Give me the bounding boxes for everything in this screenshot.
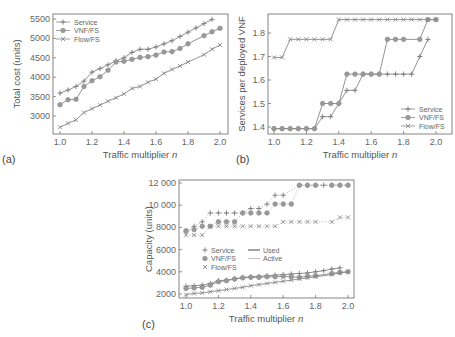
data-point-plus-marker	[256, 206, 261, 211]
data-point-circle-marker	[240, 276, 245, 281]
data-point-circle-marker	[280, 126, 285, 131]
data-point-plus-marker	[177, 34, 182, 39]
data-point-circle-marker	[192, 227, 197, 232]
legend-label: Flow/FS	[419, 123, 445, 130]
panel-label-a: (a)	[2, 153, 15, 165]
data-point-circle-marker	[265, 211, 270, 216]
data-point-circle-marker	[232, 220, 237, 225]
x-tick-label: 2.0	[214, 137, 227, 147]
data-point-plus-marker	[393, 72, 398, 77]
legend-plus-marker	[405, 106, 410, 111]
data-point-circle-marker	[138, 55, 143, 60]
legend-label: Service	[211, 247, 234, 254]
data-point-x-marker	[330, 220, 334, 224]
x-tick-label: 2.0	[342, 301, 355, 311]
y-tick-label: 5000	[30, 33, 50, 43]
data-point-x-marker	[106, 99, 110, 103]
x-tick-label: 1.6	[365, 137, 378, 147]
data-point-circle-marker	[281, 274, 286, 279]
data-point-circle-marker	[304, 126, 309, 131]
x-tick-label: 1.4	[118, 137, 131, 147]
data-point-circle-marker	[232, 277, 237, 282]
data-point-circle-marker	[296, 126, 301, 131]
data-point-circle-marker	[313, 183, 318, 188]
data-point-plus-marker	[248, 206, 253, 211]
data-point-circle-marker	[66, 97, 71, 102]
y-axis-label: Total cost (units)	[11, 39, 22, 108]
data-point-circle-marker	[385, 37, 390, 42]
x-axis-label: Traffic multiplier n	[323, 149, 397, 160]
data-point-circle-marker	[249, 211, 254, 216]
data-point-circle-marker	[184, 228, 189, 233]
data-point-circle-marker	[330, 183, 335, 188]
data-point-circle-marker	[272, 126, 277, 131]
legend-label: Flow/FS	[211, 264, 237, 271]
data-point-circle-marker	[200, 285, 205, 290]
plot-area-c	[179, 180, 354, 298]
data-point-x-marker	[82, 111, 86, 115]
data-point-plus-marker	[57, 91, 62, 96]
data-point-plus-marker	[129, 50, 134, 55]
panel-label-b: (b)	[236, 153, 249, 165]
data-point-plus-marker	[169, 38, 174, 43]
data-point-circle-marker	[328, 101, 333, 106]
legend-plus-marker	[60, 19, 65, 24]
y-tick-label: 8000	[156, 222, 176, 232]
data-point-x-marker	[122, 92, 126, 96]
data-point-x-marker	[74, 118, 78, 122]
data-point-plus-marker	[224, 210, 229, 215]
x-tick-label: 1.0	[180, 301, 193, 311]
x-tick-label: 1.2	[300, 137, 313, 147]
x-tick-label: 1.8	[309, 301, 322, 311]
data-point-plus-marker	[264, 201, 269, 206]
x-tick-label: 2.0	[430, 137, 443, 147]
data-point-plus-marker	[145, 47, 150, 52]
data-point-plus-marker	[201, 21, 206, 26]
chart-panel-c: 1.01.21.41.61.82.0200040006000800010 000…	[142, 178, 354, 330]
y-tick-label: 3500	[30, 92, 50, 102]
data-point-circle-marker	[281, 202, 286, 207]
data-point-circle-marker	[289, 202, 294, 207]
data-point-circle-marker	[224, 220, 229, 225]
y-axis-label: Capacity (units)	[143, 206, 154, 272]
data-point-circle-marker	[273, 202, 278, 207]
data-point-x-marker	[218, 43, 222, 47]
legend-label: Used	[263, 247, 279, 254]
data-point-plus-marker	[137, 47, 142, 52]
data-point-x-marker	[200, 233, 204, 237]
data-point-x-marker	[170, 67, 174, 71]
y-tick-label: 12 000	[148, 178, 176, 188]
data-point-circle-marker	[154, 53, 159, 58]
y-tick-label: 4000	[156, 267, 176, 277]
data-point-x-marker	[241, 224, 245, 228]
data-point-circle-marker	[162, 50, 167, 55]
legend-circle-marker	[406, 115, 411, 120]
x-tick-label: 1.4	[333, 137, 346, 147]
data-point-x-marker	[210, 47, 214, 51]
data-point-circle-marker	[224, 278, 229, 283]
series-flow-fs	[272, 18, 438, 60]
data-point-plus-marker	[193, 25, 198, 30]
data-point-circle-marker	[345, 72, 350, 77]
data-point-x-marker	[66, 121, 70, 125]
data-point-x-marker	[186, 60, 190, 64]
data-point-circle-marker	[210, 30, 215, 35]
data-point-circle-marker	[146, 54, 151, 59]
data-point-circle-marker	[297, 183, 302, 188]
data-point-circle-marker	[218, 26, 223, 31]
y-tick-label: 4500	[30, 53, 50, 63]
legend-label: VNF/FS	[74, 27, 99, 34]
y-axis-label: Services per deployed VNF	[236, 16, 247, 132]
data-point-plus-marker	[321, 268, 326, 273]
data-point-circle-marker	[90, 78, 95, 83]
data-point-circle-marker	[178, 46, 183, 51]
data-point-circle-marker	[377, 72, 382, 77]
y-tick-label: 4000	[30, 72, 50, 82]
data-point-x-marker	[154, 77, 158, 81]
data-point-circle-marker	[208, 283, 213, 288]
series-vnf-fs-active-	[184, 183, 351, 233]
x-tick-label: 1.8	[397, 137, 410, 147]
chart-panel-b: 1.01.21.41.61.82.01.41.51.61.71.8Traffic…	[236, 14, 452, 165]
data-point-circle-marker	[273, 274, 278, 279]
data-point-circle-marker	[122, 59, 127, 64]
